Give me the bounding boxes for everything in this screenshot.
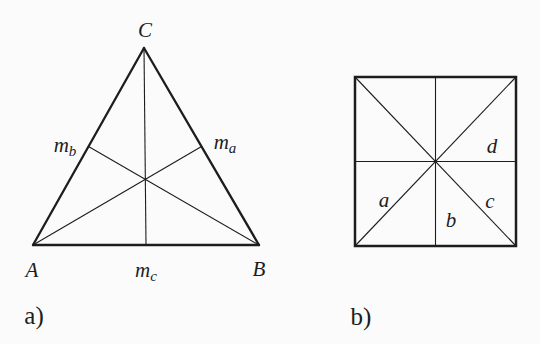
label-median-mc: mc xyxy=(135,260,157,284)
label-segment-c: c xyxy=(485,191,494,212)
median-mb-base: m xyxy=(54,133,69,157)
label-vertex-a: A xyxy=(26,260,39,281)
panel-a-caption: a) xyxy=(24,303,43,328)
median-mc-base: m xyxy=(135,258,150,282)
panel-b-caption: b) xyxy=(351,304,372,329)
label-segment-a: a xyxy=(379,190,390,211)
label-median-ma: ma xyxy=(214,132,237,156)
median-ma-base: m xyxy=(214,130,229,154)
label-vertex-b: B xyxy=(253,259,266,280)
square-figure xyxy=(355,77,516,246)
median-from-b xyxy=(89,147,260,246)
label-vertex-c: C xyxy=(138,20,152,41)
figure-canvas: C A B mb ma mc a) a b c d b) xyxy=(0,0,540,344)
median-mb-sub: b xyxy=(69,143,77,159)
median-from-c xyxy=(144,48,146,245)
median-from-a xyxy=(33,147,202,246)
median-ma-sub: a xyxy=(229,140,237,156)
median-mc-sub: c xyxy=(150,268,157,284)
label-median-mb: mb xyxy=(54,135,77,159)
label-segment-d: d xyxy=(487,136,498,157)
geometry-svg xyxy=(0,0,540,344)
label-segment-b: b xyxy=(446,210,457,231)
